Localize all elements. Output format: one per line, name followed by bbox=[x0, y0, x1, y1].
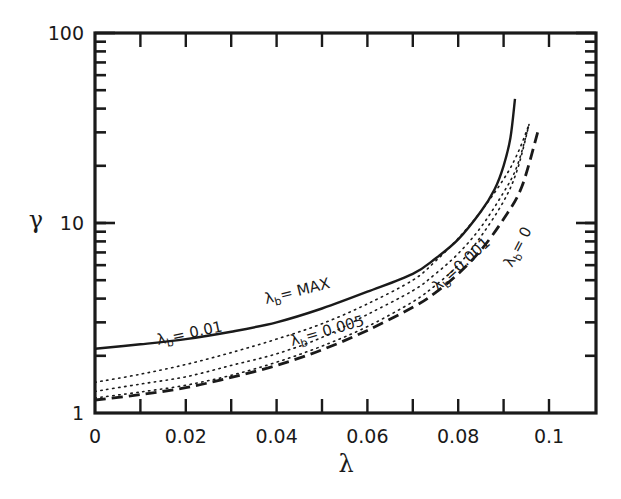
curve-label-max: λb= MAX bbox=[263, 274, 333, 311]
axis-ticks bbox=[95, 33, 596, 413]
y-tick-label: 100 bbox=[48, 22, 84, 44]
x-tick-label: 0 bbox=[89, 425, 101, 447]
curve-solid bbox=[95, 99, 515, 349]
plot-border bbox=[95, 33, 596, 413]
x-tick-label: 0.02 bbox=[165, 425, 207, 447]
curve-label-0-01: λb= 0.01 bbox=[155, 317, 225, 351]
gamma-vs-lambda-chart: 00.020.040.060.080.1110100 λ γ λb= MAX λ… bbox=[0, 0, 621, 499]
x-tick-label: 0.04 bbox=[255, 425, 297, 447]
x-axis-label: λ bbox=[338, 450, 353, 478]
curve-label-0: λb= 0 bbox=[500, 224, 539, 272]
x-tick-label: 0.08 bbox=[437, 425, 479, 447]
y-tick-label: 10 bbox=[60, 212, 84, 234]
y-tick-label: 1 bbox=[72, 402, 84, 424]
x-tick-label: 0.06 bbox=[346, 425, 388, 447]
y-axis-label: γ bbox=[29, 206, 43, 234]
curve-label-0-001: λb=0.001 bbox=[429, 234, 496, 297]
plot-frame bbox=[95, 33, 596, 413]
x-tick-label: 0.1 bbox=[534, 425, 564, 447]
axis-tick-labels: 00.020.040.060.080.1110100 bbox=[48, 22, 564, 447]
